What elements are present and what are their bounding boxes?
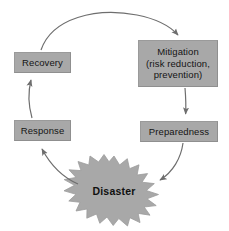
node-recovery: Recovery — [14, 52, 71, 73]
disaster-starburst-shape — [64, 155, 159, 227]
node-response: Response — [14, 120, 71, 141]
arrow-preparedness-to-disaster — [160, 143, 183, 180]
arrow-response-to-recovery — [29, 80, 32, 118]
arrow-mitigation-to-preparedness — [185, 88, 186, 114]
node-response-label: Response — [21, 125, 65, 137]
node-mitigation: Mitigation (risk reduction, prevention) — [138, 40, 218, 87]
node-mitigation-label: Mitigation (risk reduction, prevention) — [146, 46, 210, 81]
node-recovery-label: Recovery — [22, 57, 63, 69]
cycle-arrows-and-shapes — [0, 0, 229, 231]
disaster-management-cycle-diagram: Recovery Mitigation (risk reduction, pre… — [0, 0, 229, 231]
node-preparedness-label: Preparedness — [149, 126, 209, 138]
node-preparedness: Preparedness — [140, 121, 218, 142]
